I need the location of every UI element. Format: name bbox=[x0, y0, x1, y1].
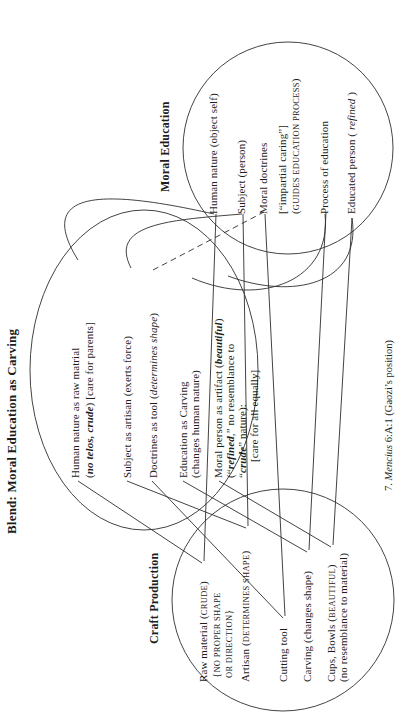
text-segment: Moral person as artifact ( bbox=[212, 364, 224, 478]
blend-item: Doctrines as tool (determines shape) bbox=[148, 313, 160, 478]
text-segment: Moral doctrines bbox=[257, 143, 269, 214]
craft-item: (no resemblance to material) bbox=[338, 553, 350, 682]
text-segment: OR DIRECTION bbox=[224, 615, 234, 678]
connector-line bbox=[183, 481, 307, 552]
text-segment: (changes human nature) bbox=[189, 370, 201, 478]
blend-item: Subject as artisan (exerts force) bbox=[122, 336, 134, 478]
blend-item: (changes human nature) bbox=[190, 370, 202, 478]
text-segment: refined bbox=[345, 99, 357, 130]
connector-line bbox=[127, 481, 246, 528]
text-segment: ) bbox=[345, 92, 357, 99]
figure-scan: Blend: Moral Education as Carving Human … bbox=[0, 0, 413, 728]
text-segment: [care for all equally] bbox=[248, 370, 260, 462]
blend-title: Blend: Moral Education as Carving bbox=[4, 329, 20, 534]
text-segment: “ bbox=[236, 473, 248, 478]
text-segment: Artisan ( bbox=[239, 642, 251, 682]
blend-item: (“refined,” no resemblance to bbox=[225, 344, 237, 478]
text-segment: Carving (changes shape) bbox=[301, 571, 313, 682]
connector-line bbox=[78, 481, 202, 563]
connector-line bbox=[309, 212, 326, 550]
text-segment: Process of education bbox=[318, 121, 330, 214]
text-segment: ) bbox=[239, 551, 251, 555]
text-segment: 7. bbox=[383, 480, 394, 491]
blend-item: (no telos, crude) [care for parents] bbox=[84, 322, 96, 478]
text-segment: refined bbox=[224, 436, 236, 469]
text-segment: Human nature as raw matrial bbox=[69, 348, 81, 478]
text-segment: ,” no resemblance to bbox=[224, 344, 236, 436]
blend-item: [care for all equally] bbox=[249, 370, 261, 462]
connector-curve bbox=[126, 214, 242, 268]
craft-production-title: Craft Production bbox=[147, 553, 162, 644]
text-segment: determines shape bbox=[147, 317, 159, 395]
text-segment: no telos, crude bbox=[83, 406, 95, 474]
text-segment: ) [care for parents] bbox=[83, 322, 95, 406]
blend-item: Moral person as artifact (beautiful) bbox=[213, 319, 225, 478]
text-segment: beautiful bbox=[212, 322, 224, 364]
text-segment: Educated person ( bbox=[345, 130, 357, 214]
text-segment: 6:A:1 (Gaozi’s position) bbox=[383, 340, 394, 445]
moral-item: Human nature (object self) bbox=[208, 93, 220, 214]
text-segment: ) bbox=[325, 564, 337, 568]
craft-item: {NO PROPER SHAPE bbox=[211, 593, 224, 678]
connector-curve bbox=[65, 199, 214, 260]
text-segment: Raw material ( bbox=[197, 615, 209, 682]
rotated-figure-stage: Blend: Moral Education as Carving Human … bbox=[0, 0, 413, 728]
text-segment: Subject (person) bbox=[235, 140, 247, 214]
connector-curve bbox=[192, 214, 325, 290]
text-segment: ) bbox=[147, 313, 159, 317]
blend-item: Education as Carving bbox=[178, 381, 190, 478]
text-segment: ( bbox=[289, 210, 301, 214]
text-segment: BEAUTIFUL bbox=[327, 568, 337, 618]
connector-curve bbox=[228, 218, 353, 287]
text-segment: } bbox=[222, 609, 234, 614]
text-segment: (no resemblance to material) bbox=[337, 553, 349, 682]
text-segment: crude bbox=[236, 447, 248, 473]
connector-line bbox=[265, 214, 285, 616]
text-segment: CRUDE bbox=[199, 585, 209, 615]
text-segment: Cups, Bowls ( bbox=[325, 618, 337, 682]
craft-item: Raw material (CRUDE) bbox=[198, 581, 211, 682]
text-segment: ) bbox=[197, 581, 209, 585]
moral-item: (GUIDES EDUCATION PROCESS) bbox=[290, 78, 303, 214]
text-segment: Human nature (object self) bbox=[207, 93, 219, 214]
moral-item: Process of education bbox=[319, 121, 331, 214]
moral-item: Subject (person) bbox=[236, 140, 248, 214]
text-segment: ” nature): bbox=[236, 404, 248, 447]
text-segment: { bbox=[210, 673, 222, 678]
text-segment: DETERMINES SHAPE bbox=[241, 555, 251, 643]
text-segment: [“impartial caring”] bbox=[276, 125, 288, 214]
text-segment: Cutting tool bbox=[277, 628, 289, 682]
text-segment: ) bbox=[212, 319, 224, 323]
blend-item: Human nature as raw matrial bbox=[70, 348, 82, 478]
text-segment: Education as Carving bbox=[177, 381, 189, 478]
moral-item: Educated person ( refined ) bbox=[346, 92, 358, 214]
moral-education-title: Moral Education bbox=[158, 101, 173, 192]
text-segment: ) bbox=[289, 78, 301, 82]
text-segment: Mencius bbox=[383, 445, 394, 481]
craft-item: Cutting tool bbox=[278, 628, 290, 682]
connector-line bbox=[219, 481, 331, 547]
text-segment: ( bbox=[83, 474, 95, 478]
text-segment: GUIDES EDUCATION PROCESS bbox=[291, 82, 301, 210]
craft-item: OR DIRECTION} bbox=[223, 609, 236, 678]
text-segment: (“ bbox=[224, 469, 236, 478]
text-segment: NO PROPER SHAPE bbox=[212, 593, 222, 673]
craft-item: Artisan (DETERMINES SHAPE) bbox=[240, 551, 253, 682]
dashed-connector bbox=[153, 212, 264, 270]
moral-item: Moral doctrines bbox=[258, 143, 270, 214]
text-segment: Subject as artisan (exerts force) bbox=[121, 336, 133, 478]
text-segment: Doctrines as tool ( bbox=[147, 395, 159, 478]
moral-item: [“impartial caring”] bbox=[277, 125, 289, 214]
blend-item: “crude” nature): bbox=[237, 404, 249, 478]
figure-caption: 7. Mencius 6:A:1 (Gaozi’s position) bbox=[383, 308, 394, 523]
craft-item: Carving (changes shape) bbox=[302, 571, 314, 682]
connector-line bbox=[333, 218, 352, 545]
